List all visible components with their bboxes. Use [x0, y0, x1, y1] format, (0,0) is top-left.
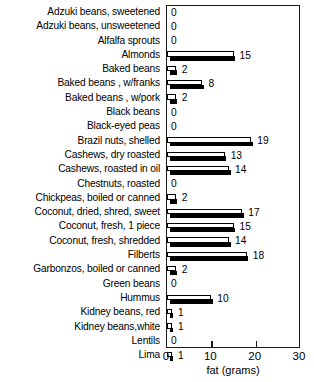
bar-row: 18 — [167, 249, 299, 263]
category-label: Lentils — [0, 334, 163, 348]
bar-face — [167, 295, 211, 300]
bar-row: 2 — [167, 192, 299, 206]
bar-value-label: 1 — [178, 320, 184, 334]
bar-value-label: 2 — [182, 191, 188, 205]
bar-row: 1 — [167, 306, 299, 320]
bar-value-label: 0 — [171, 334, 177, 348]
bar-face — [167, 80, 202, 85]
bar-row: 2 — [167, 92, 299, 106]
bar-value-label: 10 — [217, 292, 228, 306]
category-label: Chickpeas, boiled or canned — [0, 191, 163, 205]
bar-row: 0 — [167, 278, 299, 292]
category-label: Black-eyed peas — [0, 119, 163, 133]
bar-value-label: 18 — [253, 249, 264, 263]
category-label: Baked beans , w/pork — [0, 91, 163, 105]
bar-rows-layer: 0001528200191314021715141820101101 — [167, 6, 299, 347]
bar-row: 15 — [167, 220, 299, 234]
bar-row: 1 — [167, 321, 299, 335]
bar-value-label: 0 — [171, 20, 177, 34]
bar-face — [167, 309, 172, 314]
category-label: Chestnuts, roasted — [0, 177, 163, 191]
bar-face — [167, 66, 176, 71]
bar-face — [167, 94, 176, 99]
bar-row: 8 — [167, 77, 299, 91]
bar-value-label: 14 — [235, 234, 246, 248]
bar-row: 14 — [167, 235, 299, 249]
category-label: Kidney beans, red — [0, 305, 163, 319]
x-axis-tick-label: 0 — [151, 350, 181, 362]
bar-face — [167, 266, 176, 271]
bar-value-label: 0 — [171, 277, 177, 291]
bar-value-label: 0 — [171, 177, 177, 191]
x-axis-title: fat (grams) — [166, 364, 300, 376]
bar-row: 13 — [167, 149, 299, 163]
bar-row: 2 — [167, 263, 299, 277]
x-axis-tick — [211, 341, 212, 347]
bar-value-label: 1 — [178, 306, 184, 320]
category-label: Green beans — [0, 277, 163, 291]
bar-row: 0 — [167, 120, 299, 134]
bar-value-label: 13 — [231, 149, 242, 163]
bar-row: 0 — [167, 6, 299, 20]
bar-value-label: 0 — [171, 6, 177, 20]
category-label: Kidney beans,white — [0, 320, 163, 334]
category-label: Coconut, dried, shred, sweet — [0, 205, 163, 219]
category-label: Coconut, fresh, 1 piece — [0, 219, 163, 233]
bar-row: 0 — [167, 20, 299, 34]
bar-face — [167, 51, 234, 56]
bar-value-label: 14 — [235, 163, 246, 177]
x-axis-tick-label: 30 — [284, 350, 314, 362]
bar-value-label: 17 — [248, 206, 259, 220]
bar-value-label: 0 — [171, 106, 177, 120]
bar-face — [167, 137, 251, 142]
x-axis-tick-label: 10 — [195, 350, 225, 362]
bar-row: 10 — [167, 292, 299, 306]
bar-value-label: 0 — [171, 120, 177, 134]
bar-face — [167, 166, 229, 171]
bar-row: 0 — [167, 106, 299, 120]
bar-value-label: 8 — [208, 77, 214, 91]
bar-value-label: 15 — [240, 220, 251, 234]
category-label: Filberts — [0, 248, 163, 262]
bar-row: 0 — [167, 35, 299, 49]
bar-row: 15 — [167, 49, 299, 63]
bar-face — [167, 194, 176, 199]
bar-row: 17 — [167, 206, 299, 220]
bar-face — [167, 323, 172, 328]
category-label: Garbonzos, boiled or canned — [0, 262, 163, 276]
fat-grams-bar-chart: Adzuki beans, sweetenedAdzuki beans, uns… — [0, 0, 314, 382]
bar-value-label: 2 — [182, 263, 188, 277]
bar-value-label: 0 — [171, 34, 177, 48]
bar-value-label: 19 — [257, 134, 268, 148]
bar-row: 0 — [167, 335, 299, 349]
category-label: Black beans — [0, 105, 163, 119]
category-label: Alfalfa sprouts — [0, 34, 163, 48]
bar-face — [167, 223, 234, 228]
bar-value-label: 15 — [240, 49, 251, 63]
category-label: Baked beans , w/franks — [0, 76, 163, 90]
x-axis-tick-label: 20 — [240, 350, 270, 362]
category-label: Cashews, dry roasted — [0, 148, 163, 162]
x-axis-tick — [256, 341, 257, 347]
category-label: Baked beans — [0, 62, 163, 76]
category-label: Coconut, fresh, shredded — [0, 234, 163, 248]
bar-row: 14 — [167, 163, 299, 177]
category-label: Brazil nuts, shelled — [0, 134, 163, 148]
category-label: Almonds — [0, 48, 163, 62]
plot-area: 0001528200191314021715141820101101 — [166, 5, 300, 348]
bar-value-label: 2 — [182, 91, 188, 105]
bar-row: 2 — [167, 63, 299, 77]
bar-face — [167, 152, 225, 157]
bar-face — [167, 209, 242, 214]
bar-face — [167, 252, 247, 257]
category-label: Hummus — [0, 291, 163, 305]
category-axis-labels: Adzuki beans, sweetenedAdzuki beans, uns… — [0, 5, 163, 362]
category-label: Cashews, roasted in oil — [0, 162, 163, 176]
category-label: Adzuki beans, sweetened — [0, 5, 163, 19]
bar-row: 19 — [167, 135, 299, 149]
bar-value-label: 2 — [182, 63, 188, 77]
bar-face — [167, 237, 229, 242]
category-label: Adzuki beans, unsweetened — [0, 19, 163, 33]
bar-row: 0 — [167, 178, 299, 192]
